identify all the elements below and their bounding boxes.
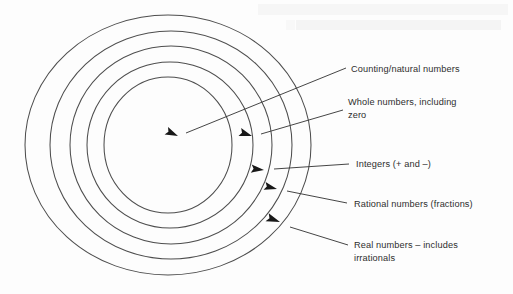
ring-group [25, 15, 311, 275]
scan-smudge-dot [286, 20, 295, 30]
label-real-numbers-line1: Real numbers – includes [354, 240, 458, 250]
arrowhead-rational-numbers [264, 182, 278, 193]
leader-line-integers [274, 164, 349, 169]
callout-counting-natural-numbers [165, 68, 346, 139]
callout-rational-numbers [264, 182, 347, 203]
leader-line-rational-numbers [287, 191, 347, 203]
callout-real-numbers [266, 213, 348, 245]
scan-smudge-lower [296, 20, 501, 30]
leader-line-counting-numbers [186, 68, 346, 133]
label-rational-numbers: Rational numbers (fractions) [354, 199, 473, 209]
label-real-numbers-line2: irrationals [354, 253, 395, 263]
ring-counting-numbers [104, 77, 232, 213]
leader-line-whole-numbers [261, 110, 343, 134]
arrowhead-counting-numbers [165, 127, 180, 139]
ring-real-numbers [25, 15, 311, 275]
label-whole-numbers-line1: Whole numbers, including [348, 97, 457, 107]
scan-artifact [258, 2, 508, 35]
callout-integers [251, 164, 349, 174]
scan-smudge-upper [258, 4, 508, 15]
arrowhead-real-numbers [266, 213, 282, 226]
label-counting-natural-numbers: Counting/natural numbers [351, 64, 460, 74]
ring-integers [70, 46, 272, 244]
ring-whole-numbers [87, 62, 253, 228]
callout-group [165, 68, 349, 245]
arrowhead-integers [251, 165, 265, 174]
number-systems-diagram: Counting/natural numbers Whole numbers, … [0, 0, 513, 294]
callout-whole-numbers [239, 110, 343, 139]
label-integers: Integers (+ and –) [356, 159, 431, 169]
leader-line-real-numbers [290, 227, 348, 245]
label-group: Counting/natural numbers Whole numbers, … [348, 64, 473, 263]
ring-rational-numbers [50, 31, 292, 259]
label-whole-numbers-line2: zero [348, 110, 366, 120]
